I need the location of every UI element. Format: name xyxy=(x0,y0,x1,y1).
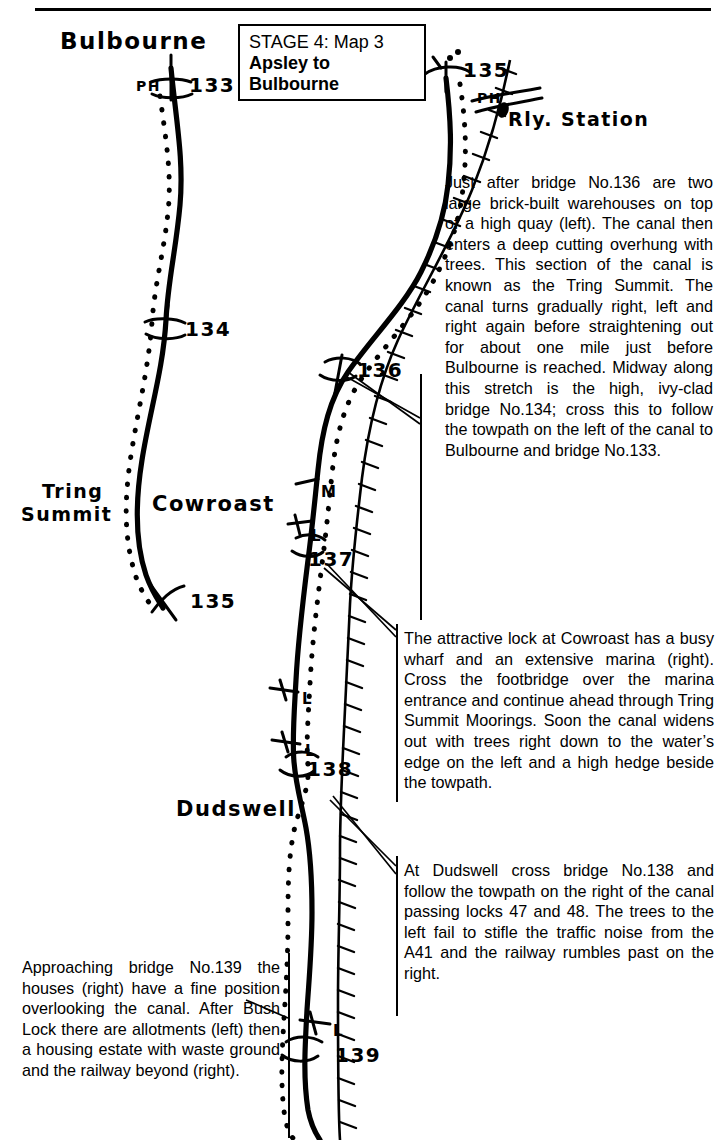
text-rule-tring-summit xyxy=(420,374,422,620)
ph-label-133: PH xyxy=(136,78,161,94)
stage-number-label: STAGE 4: Map 3 xyxy=(249,31,415,53)
cowroast-label: Cowroast xyxy=(152,492,275,516)
lock-label-l-137: L xyxy=(311,527,322,545)
text-rule-cowroast xyxy=(396,624,398,802)
bulbourne-label: Bulbourne xyxy=(60,28,207,54)
bridge-134-label: 134 xyxy=(185,317,231,341)
description-cowroast: The attractive lock at Cowroast has a bu… xyxy=(404,628,714,793)
description-dudswell: At Dudswell cross bridge No.138 and foll… xyxy=(404,860,714,984)
lock-label-l-139: L xyxy=(333,1022,344,1040)
marina-label-m: M xyxy=(321,483,337,501)
lock-label-l-upper: L xyxy=(302,690,313,708)
bridge-138-label: 138 xyxy=(307,757,353,781)
bridge-136-label: 136 xyxy=(357,358,403,382)
description-tring-summit: Just after bridge No.136 are two large b… xyxy=(445,172,713,460)
bridge-marker-135-left xyxy=(150,584,184,620)
stage-title-box: STAGE 4: Map 3 Apsley to Bulbourne xyxy=(238,24,426,101)
stage-route-to-label: Bulbourne xyxy=(249,74,415,95)
description-bridge-139: Approaching bridge No.139 the houses (ri… xyxy=(22,957,280,1081)
text-rule-dudswell xyxy=(396,856,398,1016)
bridge-135-left-label: 135 xyxy=(190,589,236,613)
text-rule-bridge-139 xyxy=(288,953,290,1138)
tring-summit-label-1: Tring xyxy=(42,480,103,502)
stage-route-from-label: Apsley to xyxy=(249,53,415,74)
guidebook-page: STAGE 4: Map 3 Apsley to Bulbourne Bulbo… xyxy=(0,0,727,1140)
tring-summit-label-2: Summit xyxy=(21,503,112,525)
bridge-139-label: 139 xyxy=(335,1043,381,1067)
bridge-137-label: 137 xyxy=(308,547,354,571)
ph-label-135: PH xyxy=(477,90,502,106)
dudswell-label: Dudswell xyxy=(176,797,296,821)
rly-station-label: Rly. Station xyxy=(508,108,649,130)
left-canal-group xyxy=(126,55,192,620)
bridge-135-top-label: 135 xyxy=(463,58,509,82)
bridge-133-label: 133 xyxy=(189,73,235,97)
lock-marker-137 xyxy=(288,515,312,535)
